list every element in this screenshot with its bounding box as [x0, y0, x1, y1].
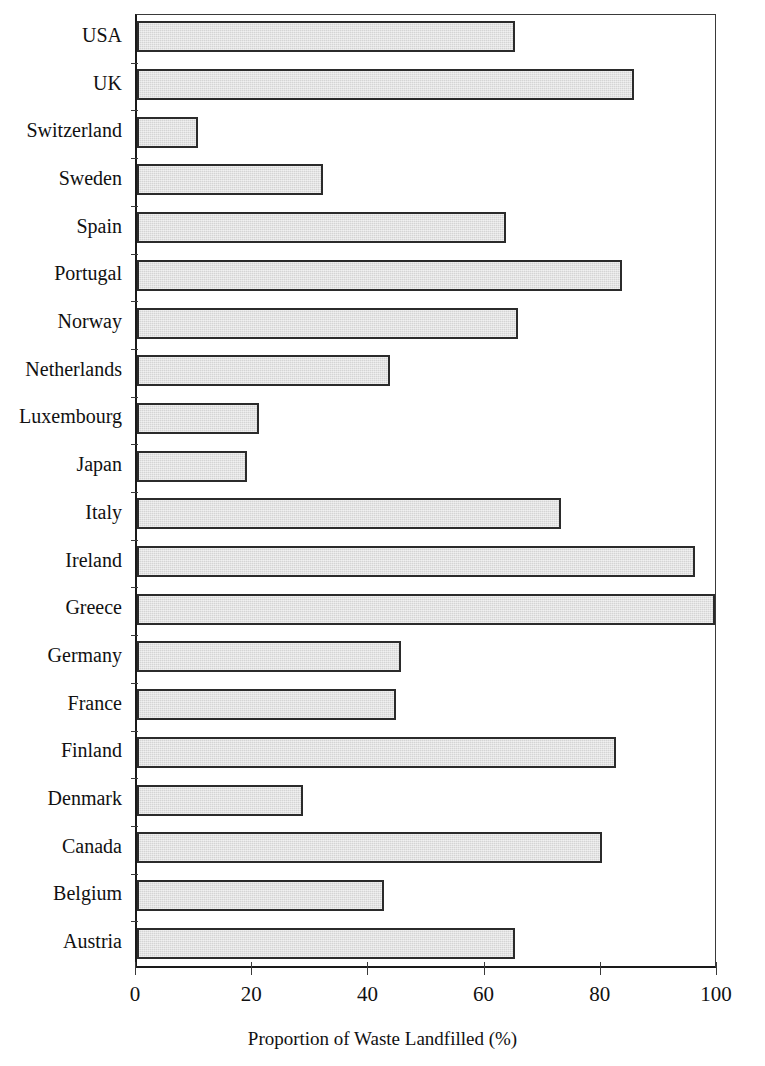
x-axis-tick — [135, 962, 136, 975]
bar-denmark — [137, 785, 303, 816]
y-axis-label-japan: Japan — [76, 454, 122, 474]
bar-austria — [137, 928, 515, 959]
x-axis-tick — [600, 962, 601, 975]
y-axis-label-france: France — [68, 693, 122, 713]
y-axis-tick — [131, 778, 138, 779]
y-axis-label-canada: Canada — [62, 836, 122, 856]
y-axis-tick — [131, 683, 138, 684]
x-axis-tick-label: 0 — [130, 984, 141, 1005]
bar-portugal — [137, 260, 622, 291]
bar-row — [137, 117, 715, 148]
bar-sweden — [137, 164, 323, 195]
y-axis-label-denmark: Denmark — [48, 788, 122, 808]
y-axis-label-germany: Germany — [48, 645, 122, 665]
bar-chart-figure: USAUKSwitzerlandSwedenSpainPortugalNorwa… — [0, 0, 765, 1066]
x-axis-tick-label: 60 — [473, 984, 494, 1005]
bar-belgium — [137, 880, 384, 911]
y-axis-tick — [131, 540, 138, 541]
y-axis-label-portugal: Portugal — [54, 263, 122, 283]
bar-row — [137, 403, 715, 434]
y-axis-tick — [131, 731, 138, 732]
y-axis-label-finland: Finland — [61, 740, 122, 760]
bar-row — [137, 355, 715, 386]
y-axis-label-norway: Norway — [58, 311, 122, 331]
bar-row — [137, 928, 715, 959]
y-axis-tick — [131, 587, 138, 588]
y-axis-tick — [131, 301, 138, 302]
bar-row — [137, 546, 715, 577]
plot-area — [135, 14, 716, 968]
bar-row — [137, 785, 715, 816]
x-axis-tick-label: 40 — [357, 984, 378, 1005]
y-axis-label-ireland: Ireland — [65, 550, 122, 570]
bar-row — [137, 594, 715, 625]
x-axis-tick — [367, 962, 368, 975]
x-axis-tick — [251, 962, 252, 975]
x-axis-tick-label: 20 — [241, 984, 262, 1005]
y-axis-label-uk: UK — [93, 73, 122, 93]
bar-row — [137, 21, 715, 52]
bar-usa — [137, 21, 515, 52]
bar-norway — [137, 308, 518, 339]
bar-japan — [137, 451, 247, 482]
y-axis-tick — [131, 63, 138, 64]
y-axis-tick — [131, 492, 138, 493]
bar-uk — [137, 69, 634, 100]
bar-italy — [137, 498, 561, 529]
bar-row — [137, 689, 715, 720]
y-axis-label-usa: USA — [82, 25, 122, 45]
y-axis-category-labels: USAUKSwitzerlandSwedenSpainPortugalNorwa… — [0, 0, 128, 1066]
x-axis-tick — [484, 962, 485, 975]
bar-row — [137, 260, 715, 291]
y-axis-label-switzerland: Switzerland — [26, 120, 122, 140]
bar-germany — [137, 641, 401, 672]
y-axis-label-netherlands: Netherlands — [25, 359, 122, 379]
bar-row — [137, 880, 715, 911]
bar-greece — [137, 594, 715, 625]
bar-row — [137, 308, 715, 339]
y-axis-tick — [131, 158, 138, 159]
x-axis-tick-label: 100 — [700, 984, 732, 1005]
bar-row — [137, 69, 715, 100]
bar-finland — [137, 737, 616, 768]
y-axis-tick — [131, 826, 138, 827]
bar-row — [137, 832, 715, 863]
bar-canada — [137, 832, 602, 863]
y-axis-tick — [131, 874, 138, 875]
y-axis-tick — [131, 921, 138, 922]
y-axis-label-spain: Spain — [76, 216, 122, 236]
y-axis-tick — [131, 110, 138, 111]
x-axis-tick-label: 80 — [589, 984, 610, 1005]
bar-row — [137, 737, 715, 768]
y-axis-tick — [131, 444, 138, 445]
bar-switzerland — [137, 117, 198, 148]
y-axis-label-belgium: Belgium — [53, 883, 122, 903]
y-axis-label-greece: Greece — [65, 597, 122, 617]
y-axis-label-sweden: Sweden — [59, 168, 122, 188]
y-axis-tick — [131, 254, 138, 255]
y-axis-tick — [131, 206, 138, 207]
x-axis-title: Proportion of Waste Landfilled (%) — [0, 1028, 765, 1050]
y-axis-label-luxembourg: Luxembourg — [19, 406, 122, 426]
x-axis: 020406080100 — [135, 968, 716, 1028]
bar-luxembourg — [137, 403, 259, 434]
bar-row — [137, 498, 715, 529]
bar-row — [137, 212, 715, 243]
y-axis-tick — [131, 397, 138, 398]
y-axis-tick — [131, 635, 138, 636]
bar-row — [137, 641, 715, 672]
bar-netherlands — [137, 355, 390, 386]
bar-ireland — [137, 546, 695, 577]
x-axis-tick — [716, 962, 717, 975]
bar-row — [137, 164, 715, 195]
bar-spain — [137, 212, 506, 243]
y-axis-label-austria: Austria — [63, 931, 122, 951]
y-axis-label-italy: Italy — [85, 502, 122, 522]
bar-france — [137, 689, 396, 720]
bar-row — [137, 451, 715, 482]
y-axis-tick — [131, 349, 138, 350]
